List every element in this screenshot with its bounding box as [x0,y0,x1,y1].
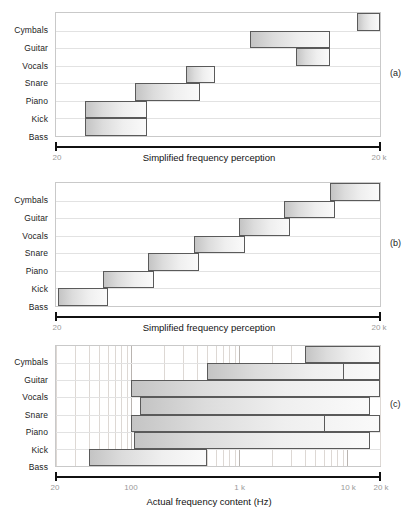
gridline-horizontal [56,218,380,219]
gridline-vertical [380,346,381,466]
category-label-bass: Bass [29,462,48,472]
panel-c-tag: (c) [390,399,401,409]
panel-b-plot-area [55,182,381,307]
category-label-kick: Kick [32,445,48,455]
panel-c-axis-rule [55,476,381,478]
gridline-horizontal [56,66,380,67]
axis-cap-left [55,142,57,151]
panel-c-tick-20k: 20 k [373,483,388,492]
category-label-snare: Snare [25,78,48,88]
bar-cymbals [330,183,380,201]
bar-vocals [131,380,380,397]
gridline-horizontal [56,253,380,254]
panel-c-plot-area [55,345,381,467]
panel-a-plot-area [55,12,381,137]
category-label-snare: Snare [25,248,48,258]
bar-piano [131,415,380,432]
panel-a-axis-title: Simplified frequency perception [0,152,418,163]
bar-divider-guitar [343,363,344,380]
category-label-guitar: Guitar [24,213,48,223]
bar-guitar [250,31,329,49]
panel-a-axis-rule [55,146,381,148]
panel-b-axis-title: Simplified frequency perception [0,322,418,333]
panel-a-tag: (a) [390,68,401,78]
bar-kick [103,271,154,289]
panel-c-tick-1k: 1 k [234,483,245,492]
bar-snare [186,66,215,83]
bar-vocals [239,218,290,236]
bar-divider-piano [324,415,325,432]
category-label-kick: Kick [32,114,48,124]
category-label-piano: Piano [26,266,48,276]
panel-c-tick-10k: 10 k [341,483,356,492]
bar-piano [148,253,199,271]
panel-c: CymbalsGuitarVocalsSnarePianoKickBass 20… [0,337,418,513]
category-label-vocals: Vocals [22,61,48,71]
panel-a: CymbalsGuitarVocalsSnarePianoKickBass 20… [0,0,418,175]
category-label-piano: Piano [26,96,48,106]
category-label-bass: Bass [29,132,48,142]
axis-cap-left [55,312,57,321]
panel-c-tick-20: 20 [51,483,60,492]
bar-bass [58,288,109,306]
bar-snare [194,236,245,253]
panel-b: CymbalsGuitarVocalsSnarePianoKickBass 20… [0,172,418,337]
bar-snare [140,397,369,414]
panel-c-axis-title: Actual frequency content (Hz) [0,496,418,507]
category-label-guitar: Guitar [24,43,48,53]
bar-guitar [284,201,335,219]
bar-piano [135,83,200,101]
category-label-cymbals: Cymbals [14,357,48,367]
bar-vocals [296,48,330,66]
bar-kick [134,432,370,449]
category-label-kick: Kick [32,284,48,294]
gridline-horizontal [56,83,380,84]
category-label-cymbals: Cymbals [14,25,48,35]
panel-c-tick-100: 100 [124,483,137,492]
axis-cap-left [55,472,57,481]
category-label-cymbals: Cymbals [14,195,48,205]
axis-cap-right [379,142,381,151]
category-label-vocals: Vocals [22,392,48,402]
bar-kick [85,101,147,119]
bar-bass [89,449,207,466]
bar-guitar [207,363,380,380]
panel-b-axis-rule [55,316,381,318]
category-label-guitar: Guitar [24,375,48,385]
panel-b-tag: (b) [390,238,401,248]
category-label-snare: Snare [25,410,48,420]
category-label-bass: Bass [29,302,48,312]
gridline-horizontal [56,31,380,32]
category-label-piano: Piano [26,427,48,437]
category-label-vocals: Vocals [22,231,48,241]
axis-cap-right [379,472,381,481]
bar-bass [85,118,147,136]
gridline-horizontal [56,48,380,49]
bar-cymbals [357,13,380,31]
axis-cap-right [379,312,381,321]
bar-cymbals [305,346,380,363]
